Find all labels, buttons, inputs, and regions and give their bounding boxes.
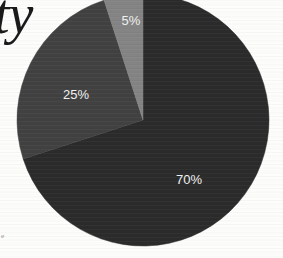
pie-chart: 70%25%5% xyxy=(0,0,283,258)
pie-chart-svg: 70%25%5% xyxy=(0,0,283,258)
pie-chart-screenshot: ty 70%25%5% e xyxy=(0,0,283,258)
pie-slice-label: 5% xyxy=(122,13,141,28)
pie-slice-group xyxy=(17,0,269,246)
page-title-fragment: ty xyxy=(0,0,32,42)
pie-slice-label: 25% xyxy=(63,87,89,102)
pie-slice-label: 70% xyxy=(176,172,202,187)
caption-fragment: e xyxy=(1,233,4,240)
